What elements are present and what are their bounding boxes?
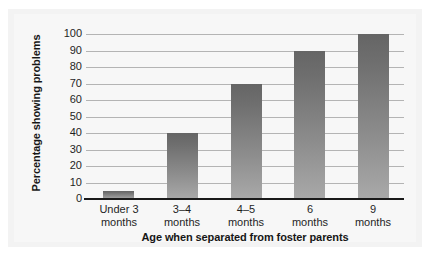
bar <box>167 133 198 199</box>
y-axis-title: Percentage showing problems <box>28 27 44 199</box>
x-axis-tick-label-line2: months <box>209 216 283 229</box>
x-axis-line <box>84 198 404 200</box>
y-axis-tick-label: 60 <box>52 94 82 105</box>
y-axis-tick-label: 0 <box>52 193 82 204</box>
y-axis-tick-label: 90 <box>52 45 82 56</box>
y-axis-tick-label: 20 <box>52 160 82 171</box>
y-axis-tick-label: 10 <box>52 177 82 188</box>
x-axis-tick-label-line2: months <box>145 216 219 229</box>
y-axis-tick-label: 30 <box>52 144 82 155</box>
y-axis-tick-label: 70 <box>52 78 82 89</box>
x-axis-tick-label-line1: 9 <box>336 203 410 216</box>
y-axis-tick-labels: 1009080706050403020100 <box>52 34 82 200</box>
y-axis-tick-label: 100 <box>52 28 82 39</box>
y-axis-tick-label: 50 <box>52 111 82 122</box>
bar <box>231 84 262 200</box>
bar-chart-figure: Percentage showing problems 100908070605… <box>0 0 438 255</box>
x-axis-tick-label-line1: 4–5 <box>209 203 283 216</box>
x-axis-tick-label: 3–4months <box>145 203 219 229</box>
x-axis-title: Age when separated from foster parents <box>86 231 404 243</box>
x-axis-tick-label-line2: months <box>336 216 410 229</box>
bar <box>358 34 389 199</box>
x-axis-tick-labels: Under 3months3–4months4–5months6months9m… <box>86 203 404 233</box>
y-axis-tick-label: 80 <box>52 61 82 72</box>
bar <box>294 51 325 200</box>
y-axis-tick-label: 40 <box>52 127 82 138</box>
bar-series <box>86 34 404 199</box>
x-axis-tick-label-line1: 3–4 <box>145 203 219 216</box>
x-axis-tick-label: 9months <box>336 203 410 229</box>
x-axis-tick-label: 4–5months <box>209 203 283 229</box>
